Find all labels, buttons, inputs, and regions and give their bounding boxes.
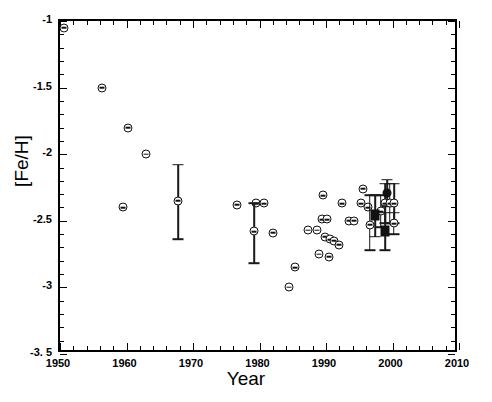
data-point	[359, 184, 368, 193]
data-point	[349, 216, 358, 225]
error-bar-cap	[370, 236, 381, 238]
y-axis-tick-label: -3	[4, 279, 52, 291]
data-point	[260, 199, 269, 208]
y-axis-tick-label: -1.5	[4, 80, 52, 92]
y-axis-tick	[448, 354, 455, 355]
metallicity-vs-year-scatter-chart: 1950196019701980199020002010 -1-1.5-2-2.…	[0, 0, 492, 402]
error-bar-cap	[249, 203, 260, 205]
data-point	[268, 228, 277, 237]
data-point	[318, 191, 327, 200]
data-point	[97, 83, 106, 92]
y-axis-tick-label: -1	[4, 13, 52, 25]
error-bar-cap	[249, 263, 260, 265]
data-point	[174, 196, 183, 205]
data-point	[304, 226, 313, 235]
error-bar-cap	[380, 249, 391, 251]
data-point	[337, 199, 346, 208]
x-axis-title: Year	[0, 368, 492, 390]
error-bar-cap	[380, 212, 391, 214]
data-point	[371, 210, 380, 221]
error-bar-cap	[173, 164, 184, 166]
data-point	[290, 263, 299, 272]
y-axis-title: [Fe/H]	[11, 101, 33, 221]
error-bar-cap	[364, 249, 375, 251]
y-axis-tick	[60, 354, 67, 355]
data-point	[390, 199, 399, 208]
data-point	[142, 150, 151, 159]
data-point	[324, 252, 333, 261]
error-bar-cap	[370, 195, 381, 197]
y-axis-tick-label: -3. 5	[4, 346, 52, 358]
data-marks-layer	[60, 21, 455, 350]
error-bar-cap	[388, 233, 399, 235]
data-point	[250, 227, 259, 236]
data-point	[314, 250, 323, 259]
data-point	[312, 226, 321, 235]
error-bar-cap	[389, 183, 400, 185]
error-bar-cap	[173, 239, 184, 241]
data-point	[59, 23, 68, 32]
data-point	[389, 219, 398, 228]
data-point	[119, 203, 128, 212]
data-point	[381, 226, 390, 237]
data-point	[335, 240, 344, 249]
data-point	[285, 283, 294, 292]
x-axis-tick	[459, 21, 460, 28]
data-point	[123, 123, 132, 132]
data-point	[365, 220, 374, 229]
data-point	[323, 215, 332, 224]
plot-area	[58, 19, 457, 352]
data-point	[232, 200, 241, 209]
error-bar-cap	[382, 179, 393, 181]
x-axis-tick	[459, 343, 460, 350]
